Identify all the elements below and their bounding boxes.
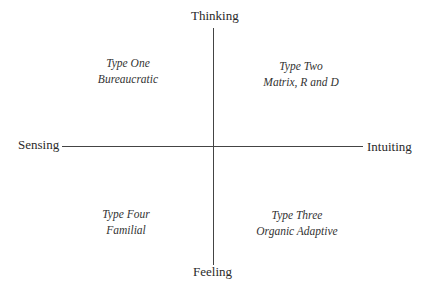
quadrant-subtitle: Matrix, R and D xyxy=(263,74,338,90)
axis-label-feeling: Feeling xyxy=(193,265,232,278)
quadrant-type-two: Type Two Matrix, R and D xyxy=(263,58,338,90)
quadrant-title: Type Three xyxy=(256,207,337,223)
quadrant-title: Type Two xyxy=(263,58,338,74)
quadrant-title: Type Four xyxy=(102,206,149,222)
quadrant-type-four: Type Four Familial xyxy=(102,206,149,238)
quadrant-type-three: Type Three Organic Adaptive xyxy=(256,207,337,239)
quadrant-subtitle: Familial xyxy=(102,222,149,238)
axis-label-sensing: Sensing xyxy=(18,138,59,151)
axis-label-thinking: Thinking xyxy=(191,9,239,22)
quadrant-subtitle: Bureaucratic xyxy=(98,71,158,87)
horizontal-axis-line xyxy=(62,146,363,147)
axis-label-intuiting: Intuiting xyxy=(367,140,412,153)
quadrant-title: Type One xyxy=(98,55,158,71)
quadrant-type-one: Type One Bureaucratic xyxy=(98,55,158,87)
quadrant-subtitle: Organic Adaptive xyxy=(256,223,337,239)
